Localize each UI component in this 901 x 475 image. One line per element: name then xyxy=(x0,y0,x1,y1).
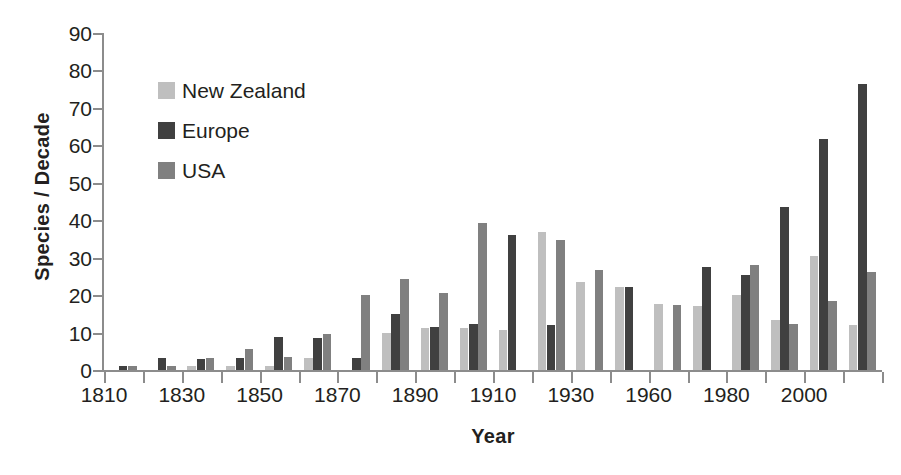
y-axis-tick-mark xyxy=(93,183,102,185)
bar xyxy=(741,275,750,370)
x-axis-tick-mark xyxy=(688,372,690,383)
chart-legend: New ZealandEuropeUSA xyxy=(158,70,418,190)
y-axis-tick-mark xyxy=(93,70,102,72)
x-axis-tick-mark xyxy=(260,372,262,383)
bar xyxy=(595,270,604,370)
bar xyxy=(780,207,789,370)
bar-chart-figure: Species / Decade 0102030405060708090 181… xyxy=(0,0,901,475)
bar xyxy=(508,235,517,370)
bar xyxy=(732,295,741,370)
bar-group xyxy=(771,33,799,370)
x-axis-tick-mark xyxy=(376,372,378,383)
y-axis-tick-label: 30 xyxy=(30,247,92,268)
x-axis-tick-label: 1850 xyxy=(236,384,283,405)
x-axis-tick-mark xyxy=(221,372,223,383)
bar xyxy=(382,333,391,370)
y-axis-tick-mark xyxy=(93,220,102,222)
bar-group xyxy=(110,33,138,370)
bar-group xyxy=(538,33,566,370)
legend-label: Europe xyxy=(182,120,250,141)
x-axis-tick-label: 1910 xyxy=(470,384,517,405)
bar xyxy=(197,359,206,370)
bar xyxy=(693,306,702,370)
bar xyxy=(274,337,283,370)
bar xyxy=(206,358,215,370)
bar xyxy=(119,366,128,370)
legend-item: New Zealand xyxy=(158,70,418,110)
x-axis-tick-mark xyxy=(143,372,145,383)
bar xyxy=(771,320,780,370)
x-axis-tick-label: 1960 xyxy=(625,384,672,405)
bar-group xyxy=(849,33,877,370)
legend-label: USA xyxy=(182,160,225,181)
x-axis-tick-mark xyxy=(182,372,184,383)
legend-swatch-icon xyxy=(158,162,175,179)
bar-group xyxy=(421,33,449,370)
x-axis-tick-mark xyxy=(104,372,106,383)
y-axis-tick-label: 90 xyxy=(30,23,92,44)
x-axis-tick-label: 1890 xyxy=(392,384,439,405)
y-axis-tick-label: 60 xyxy=(30,135,92,156)
y-axis-tick-label: 50 xyxy=(30,172,92,193)
bar xyxy=(236,358,245,370)
y-axis-tick-label: 70 xyxy=(30,97,92,118)
bar xyxy=(421,328,430,370)
bar xyxy=(469,324,478,370)
x-axis-tick-label: 2000 xyxy=(781,384,828,405)
bar xyxy=(858,84,867,370)
bar xyxy=(265,366,274,370)
bar xyxy=(245,349,254,370)
x-axis-tick-labels: 1810183018501870189019101930196019802000 xyxy=(102,384,884,414)
x-axis-tick-label: 1980 xyxy=(703,384,750,405)
x-axis-tick-mark xyxy=(882,372,884,383)
x-axis-tick-label: 1870 xyxy=(314,384,361,405)
bar xyxy=(819,139,828,370)
y-axis-tick-label: 20 xyxy=(30,285,92,306)
bar xyxy=(304,358,313,370)
legend-label: New Zealand xyxy=(182,80,306,101)
bar xyxy=(226,366,235,370)
x-axis-tick-mark xyxy=(493,372,495,383)
legend-item: USA xyxy=(158,150,418,190)
legend-swatch-icon xyxy=(158,122,175,139)
bar xyxy=(400,279,409,370)
bar xyxy=(313,338,322,370)
bar xyxy=(654,304,663,370)
bar xyxy=(430,327,439,370)
bar-group xyxy=(460,33,488,370)
bar xyxy=(625,287,634,370)
bar xyxy=(556,240,565,370)
y-axis-tick-label: 10 xyxy=(30,322,92,343)
bar xyxy=(128,366,137,370)
y-axis-tick-mark xyxy=(93,295,102,297)
bar-group xyxy=(615,33,643,370)
x-axis-tick-mark xyxy=(454,372,456,383)
x-axis-tick-mark xyxy=(571,372,573,383)
bar xyxy=(538,232,547,370)
bar xyxy=(547,325,556,370)
x-axis-tick-mark xyxy=(726,372,728,383)
bar xyxy=(167,366,176,370)
bar xyxy=(439,293,448,371)
bar xyxy=(499,330,508,370)
y-axis-tick-mark xyxy=(93,333,102,335)
bar xyxy=(702,267,711,370)
x-axis-tick-mark xyxy=(804,372,806,383)
bar xyxy=(810,256,819,370)
y-axis-tick-label: 40 xyxy=(30,210,92,231)
x-axis-title: Year xyxy=(102,425,884,448)
bar-group xyxy=(810,33,838,370)
bar xyxy=(284,357,293,370)
x-axis-tick-mark xyxy=(843,372,845,383)
bar xyxy=(789,324,798,370)
bar xyxy=(828,301,837,370)
x-axis-tick-label: 1810 xyxy=(81,384,128,405)
x-axis-tick-mark xyxy=(765,372,767,383)
x-axis-tick-mark xyxy=(415,372,417,383)
x-axis-tick-mark xyxy=(649,372,651,383)
bar xyxy=(460,328,469,370)
bar-group xyxy=(576,33,604,370)
bar xyxy=(187,366,196,370)
y-axis-tick-mark xyxy=(93,258,102,260)
bar xyxy=(673,305,682,370)
